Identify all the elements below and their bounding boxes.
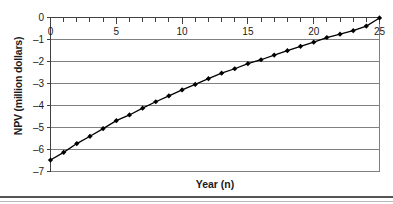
x-tick-label: 0 [48, 27, 54, 37]
x-tick-label: 5 [114, 27, 120, 37]
footer-rule-secondary [0, 201, 393, 202]
footer-rule [0, 196, 393, 198]
x-tick-label: 15 [242, 27, 253, 37]
x-axis-title: Year (n) [50, 178, 380, 190]
x-axis-tick-labels: 0510152025 [0, 0, 393, 204]
chart-figure: NPV (million dollars) 0–1–2–3–4–5–6–7 05… [0, 0, 393, 204]
x-tick-label: 10 [177, 27, 188, 37]
x-tick-label: 25 [374, 27, 385, 37]
x-tick-label: 20 [308, 27, 319, 37]
